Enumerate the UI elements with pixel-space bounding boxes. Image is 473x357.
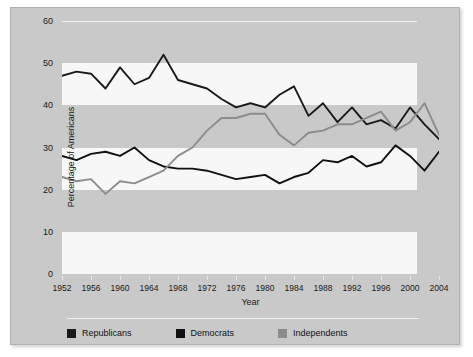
chart-figure: 6050403020100 19521956196019641968197219…	[10, 7, 460, 345]
legend-divider	[67, 318, 419, 319]
y-tick-label-50: 50	[19, 59, 53, 68]
x-tick-mark-1980	[265, 276, 266, 280]
chart-legend: RepublicansDemocratsIndependents	[67, 328, 392, 338]
legend-swatch-independents	[278, 329, 287, 338]
x-tick-mark-1956	[91, 276, 92, 280]
x-tick-mark-2000	[410, 276, 411, 280]
legend-swatch-republicans	[67, 329, 76, 338]
legend-label-democrats: Democrats	[191, 328, 235, 338]
series-lines-container	[62, 21, 439, 274]
y-tick-label-10: 10	[19, 228, 53, 237]
x-tick-mark-1988	[323, 276, 324, 280]
x-tick-mark-1992	[352, 276, 353, 280]
legend-label-independents: Independents	[293, 328, 348, 338]
y-axis-title-anchor: Percentage of Americans	[21, 68, 37, 228]
legend-item-republicans[interactable]: Republicans	[67, 328, 132, 338]
plot-area	[62, 21, 439, 274]
x-tick-mark-1952	[62, 276, 63, 280]
x-axis-title: Year	[62, 297, 439, 307]
y-tick-label-0: 0	[19, 270, 53, 279]
x-tick-mark-2004	[439, 276, 440, 280]
x-tick-mark-1968	[178, 276, 179, 280]
x-tick-label-2004: 2004	[419, 283, 459, 293]
x-tick-mark-1964	[149, 276, 150, 280]
x-tick-mark-1996	[381, 276, 382, 280]
x-tick-mark-1972	[207, 276, 208, 280]
legend-label-republicans: Republicans	[82, 328, 132, 338]
legend-swatch-democrats	[176, 329, 185, 338]
series-svg	[62, 21, 439, 274]
x-tick-mark-1960	[120, 276, 121, 280]
y-tick-label-60: 60	[19, 17, 53, 26]
y-axis-title: Percentage of Americans	[66, 97, 76, 217]
series-line-independents	[62, 103, 439, 194]
x-tick-mark-1984	[294, 276, 295, 280]
legend-item-independents[interactable]: Independents	[278, 328, 348, 338]
series-line-democrats	[62, 145, 439, 183]
series-line-republicans	[62, 55, 439, 139]
legend-item-democrats[interactable]: Democrats	[176, 328, 235, 338]
x-tick-mark-1976	[236, 276, 237, 280]
